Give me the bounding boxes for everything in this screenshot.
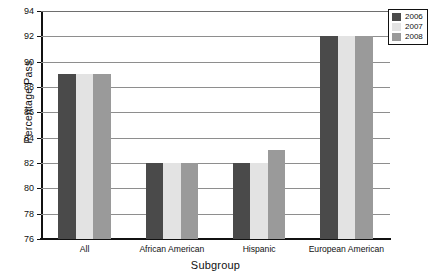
legend-swatch-icon <box>392 23 401 31</box>
x-tick-label: European American <box>309 244 384 254</box>
y-tick-mark <box>37 239 41 240</box>
x-tick-label: African American <box>139 244 204 254</box>
bars-layer <box>41 11 390 239</box>
bar-2006-african-american[interactable] <box>146 163 164 239</box>
x-tick-label: All <box>80 244 90 254</box>
legend-item-2007[interactable]: 2007 <box>392 23 423 31</box>
bar-2007-all[interactable] <box>76 74 94 239</box>
y-tick-label: 88 <box>24 82 34 92</box>
legend-swatch-icon <box>392 13 401 21</box>
bar-2007-african-american[interactable] <box>163 163 181 239</box>
bar-group <box>58 11 111 239</box>
x-axis-tick-labels: AllAfrican AmericanHispanicEuropean Amer… <box>41 244 390 258</box>
y-tick-label: 86 <box>24 107 34 117</box>
legend-label: 2007 <box>405 23 423 31</box>
x-tick-label: Hispanic <box>243 244 276 254</box>
plot-area: 94929088868482807876 <box>41 11 390 239</box>
bar-2007-hispanic[interactable] <box>250 163 268 239</box>
legend-swatch-icon <box>392 33 401 41</box>
y-tick-label: 76 <box>24 234 34 244</box>
y-tick-label: 80 <box>24 183 34 193</box>
bar-group <box>320 11 373 239</box>
bar-chart: Percentage Pass 94929088868482807876 All… <box>0 0 438 279</box>
bar-2008-african-american[interactable] <box>181 163 199 239</box>
x-axis-title: Subgroup <box>41 259 390 271</box>
legend-item-2008[interactable]: 2008 <box>392 33 423 41</box>
y-tick-label: 82 <box>24 158 34 168</box>
bar-2007-european-american[interactable] <box>338 36 356 239</box>
bar-2006-hispanic[interactable] <box>233 163 251 239</box>
bar-group <box>146 11 199 239</box>
y-tick-label: 78 <box>24 209 34 219</box>
legend-label: 2006 <box>405 13 423 21</box>
y-tick-label: 90 <box>24 57 34 67</box>
bar-2006-all[interactable] <box>58 74 76 239</box>
y-tick-label: 92 <box>24 31 34 41</box>
bar-group <box>233 11 286 239</box>
bar-2008-hispanic[interactable] <box>268 150 286 239</box>
legend-label: 2008 <box>405 33 423 41</box>
bar-2008-european-american[interactable] <box>355 36 373 239</box>
bar-2008-all[interactable] <box>93 74 111 239</box>
legend-item-2006[interactable]: 2006 <box>392 13 423 21</box>
bar-2006-european-american[interactable] <box>320 36 338 239</box>
y-tick-label: 94 <box>24 6 34 16</box>
chart-legend: 200620072008 <box>388 9 428 45</box>
y-tick-label: 84 <box>24 133 34 143</box>
